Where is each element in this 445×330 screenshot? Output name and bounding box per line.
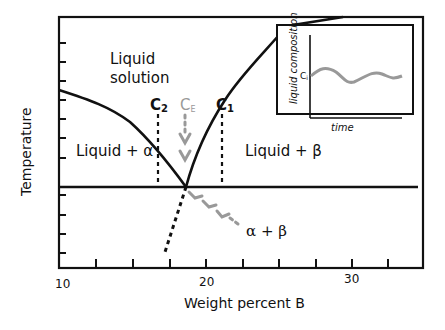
x-tick-20: 20 [199,275,214,289]
region-alpha-beta-label: α + β [246,222,287,240]
inset-x-label: time [331,122,354,133]
c2-label: C2 [150,96,168,114]
x-axis-label: Weight percent B [184,295,305,311]
inset-y-label: liquid composition [288,12,299,104]
metastable-extension [165,187,186,252]
x-axis-ticks [96,259,388,268]
ce-path [180,115,238,224]
y-axis-label: Temperature [18,107,34,197]
region-liquid-label: Liquid [110,50,155,68]
x-tick-30: 30 [344,272,359,286]
region-liquid-beta-label: Liquid + β [245,142,322,160]
region-liquid-label-2: solution [110,69,169,87]
inset: liquid composition time Ci [277,12,413,133]
ce-label: CE [180,96,196,114]
region-liquid-alpha-label: Liquid + α [76,142,153,160]
c1-label: C1 [216,96,234,114]
phase-diagram: Liquid solution Liquid + α Liquid + β α … [0,0,445,330]
x-tick-10: 10 [55,277,70,291]
